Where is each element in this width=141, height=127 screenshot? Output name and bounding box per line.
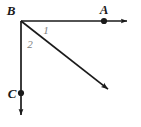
point-c-dot — [18, 90, 24, 96]
geometry-diagram: B A C 1 2 — [0, 0, 141, 127]
point-label-b: B — [6, 3, 16, 18]
point-label-c: C — [8, 86, 17, 101]
ray-b-diagonal-line — [21, 21, 108, 89]
point-a-dot — [101, 18, 107, 24]
angle-label-1: 1 — [43, 24, 49, 36]
angle-label-2: 2 — [27, 38, 33, 50]
geometry-canvas: B A C 1 2 — [0, 0, 141, 127]
point-label-a: A — [99, 2, 109, 17]
